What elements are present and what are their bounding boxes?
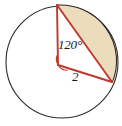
geometry-figure: 120° 2 [0, 0, 122, 126]
radius-line-top [57, 5, 58, 65]
radius-length-label: 2 [72, 70, 79, 83]
angle-measure-label: 120° [58, 38, 82, 51]
figure-canvas [0, 0, 122, 126]
